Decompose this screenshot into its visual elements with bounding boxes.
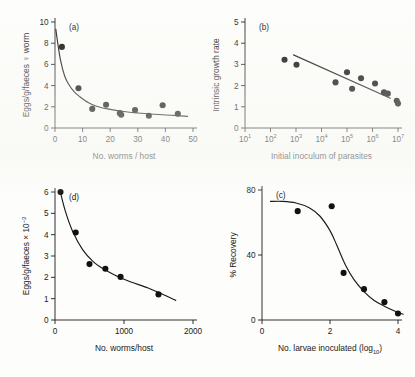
panel-b-data-point bbox=[293, 62, 299, 68]
panel-d-y-tick-label: 6 bbox=[44, 188, 49, 197]
panel-d-x-axis-title: No. worms/host bbox=[95, 343, 154, 353]
panel-a-data-point bbox=[103, 102, 109, 108]
panel-c: 04080024(c)No. larvae inoculated (log10)… bbox=[228, 186, 403, 355]
panel-a-x-tick-label: 20 bbox=[106, 135, 116, 144]
panel-c-fit-curve bbox=[271, 201, 404, 314]
panel-a-panel-label: (a) bbox=[69, 23, 79, 32]
panel-c-y-tick-label: 40 bbox=[246, 251, 256, 260]
panel-d-data-point bbox=[102, 266, 108, 272]
panel-b-x-tick-label: 101 bbox=[239, 133, 251, 143]
panel-d-y-tick-label: 3 bbox=[44, 252, 49, 261]
panel-b-y-axis-title: Intrinsic growth rate bbox=[211, 38, 221, 111]
panel-b-x-tick-label: 106 bbox=[366, 133, 378, 143]
panel-b-panel-label: (b) bbox=[259, 23, 269, 32]
panel-c-data-point bbox=[341, 270, 347, 276]
panel-b-data-point bbox=[344, 69, 350, 75]
panel-b: 012345101102103104105106107(b)Initial in… bbox=[211, 18, 404, 161]
panel-c-y-tick-label: 0 bbox=[251, 316, 256, 325]
panel-a-data-point bbox=[118, 112, 124, 118]
panel-a-x-tick-label: 50 bbox=[188, 135, 198, 144]
panel-d-x-tick-label: 0 bbox=[53, 327, 58, 336]
panel-d-y-tick-label: 5 bbox=[44, 209, 49, 218]
panel-b-x-tick-label: 104 bbox=[315, 133, 327, 143]
panel-b-x-tick-label: 105 bbox=[341, 133, 353, 143]
panel-a-data-point bbox=[132, 107, 138, 113]
panel-c-x-tick-label: 2 bbox=[328, 327, 333, 336]
panel-c-data-point bbox=[381, 299, 387, 305]
panel-a-data-point bbox=[146, 113, 152, 119]
panel-d-y-tick-label: 0 bbox=[44, 316, 49, 325]
panel-a-y-axis-title: Eggs/g/faeces ♀ worm bbox=[21, 33, 31, 118]
panel-a-y-tick-label: 8 bbox=[44, 39, 49, 48]
panel-c-panel-label: (c) bbox=[276, 191, 286, 200]
panel-b-data-point bbox=[281, 57, 287, 63]
panel-d-fit-curve bbox=[60, 190, 176, 301]
panel-b-y-tick-label: 0 bbox=[234, 124, 239, 133]
panel-b-data-point bbox=[332, 79, 338, 85]
panel-b-data-point bbox=[395, 101, 401, 107]
panel-a-data-point bbox=[175, 111, 181, 117]
panel-a-y-tick-label: 4 bbox=[44, 82, 49, 91]
panel-d-data-point bbox=[155, 291, 161, 297]
panel-a-y-tick-label: 2 bbox=[44, 103, 49, 112]
panel-a-x-axis-title: No. worms / host bbox=[93, 151, 157, 161]
panel-b-axis-spine bbox=[245, 18, 402, 128]
panel-a-fit-curve bbox=[56, 29, 188, 116]
panel-a-data-point bbox=[160, 102, 166, 108]
panel-c-y-tick-label: 80 bbox=[246, 186, 256, 195]
panel-d-data-point bbox=[73, 229, 79, 235]
panel-a-y-tick-label: 10 bbox=[39, 18, 49, 27]
panel-d-data-point bbox=[86, 261, 92, 267]
panel-a-data-point bbox=[75, 85, 81, 91]
panel-c-x-axis-title: No. larvae inoculated (log10) bbox=[278, 343, 382, 355]
panel-d-y-tick-label: 4 bbox=[44, 231, 49, 240]
panel-b-y-tick-label: 5 bbox=[234, 18, 239, 27]
panel-a-y-tick-label: 0 bbox=[44, 124, 49, 133]
panel-b-data-point bbox=[372, 80, 378, 86]
panel-d: 0123456010002000(d)No. worms/hostEggs/g/… bbox=[21, 188, 203, 353]
multi-panel-figure: 024681001020304050(a)No. worms / hostEgg… bbox=[0, 0, 415, 377]
panel-b-data-point bbox=[349, 86, 355, 92]
panel-c-x-tick-label: 4 bbox=[396, 327, 401, 336]
panel-a-x-tick-label: 30 bbox=[133, 135, 143, 144]
panel-d-x-tick-label: 1000 bbox=[115, 327, 134, 336]
panel-b-y-tick-label: 3 bbox=[234, 60, 239, 69]
panel-b-x-tick-label: 103 bbox=[290, 133, 302, 143]
panel-c-data-point bbox=[329, 203, 335, 209]
panel-b-y-tick-label: 1 bbox=[234, 103, 239, 112]
panel-a: 024681001020304050(a)No. worms / hostEgg… bbox=[21, 18, 198, 161]
panel-a-x-tick-label: 40 bbox=[161, 135, 171, 144]
panel-d-y-axis-title: Eggs/g/faeces × 10−3 bbox=[21, 217, 31, 295]
panel-d-data-point bbox=[57, 189, 63, 195]
panel-b-data-point bbox=[385, 91, 391, 97]
panel-c-y-axis-title: % Recovery bbox=[228, 232, 238, 278]
panel-a-y-tick-label: 6 bbox=[44, 60, 49, 69]
panel-c-data-point bbox=[361, 286, 367, 292]
panel-d-panel-label: (d) bbox=[69, 193, 79, 202]
panel-b-x-tick-label: 107 bbox=[392, 133, 404, 143]
panel-b-fit-line bbox=[293, 55, 390, 98]
panel-c-data-point bbox=[395, 310, 401, 316]
panel-d-y-tick-label: 1 bbox=[44, 295, 49, 304]
panel-b-data-point bbox=[358, 75, 364, 81]
panel-a-data-point bbox=[89, 106, 95, 112]
panel-d-y-tick-label: 2 bbox=[44, 273, 49, 282]
panel-c-x-tick-label: 0 bbox=[260, 327, 265, 336]
panel-b-x-axis-title: Initial inoculum of parasites bbox=[271, 151, 372, 161]
panel-c-data-point bbox=[295, 208, 301, 214]
panel-b-y-tick-label: 4 bbox=[234, 39, 239, 48]
panel-d-data-point bbox=[118, 274, 124, 280]
panel-a-x-tick-label: 0 bbox=[53, 135, 58, 144]
panel-a-x-tick-label: 10 bbox=[78, 135, 88, 144]
panel-b-y-tick-label: 2 bbox=[234, 82, 239, 91]
panel-d-x-tick-label: 2000 bbox=[184, 327, 203, 336]
panel-a-data-point bbox=[59, 44, 65, 50]
panel-b-x-tick-label: 102 bbox=[264, 133, 276, 143]
